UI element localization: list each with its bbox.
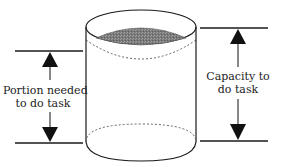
cylinder-bottom-back — [86, 124, 196, 142]
portion-needed-label-line1: Portion needed — [3, 84, 83, 97]
cylinder — [86, 10, 196, 161]
portion-needed-label-line2: to do task — [3, 97, 83, 110]
capacity-label-line2: do task — [200, 83, 276, 96]
arrow-down-icon — [230, 124, 246, 140]
cylinder-bottom-front — [86, 142, 196, 161]
capacity-label-line1: Capacity to — [200, 70, 276, 83]
arrow-down-icon — [42, 127, 58, 142]
liquid-surface — [96, 28, 186, 45]
arrow-up-icon — [230, 29, 246, 44]
capacity-label: Capacity to do task — [200, 70, 276, 96]
arrow-up-icon — [42, 52, 58, 67]
portion-needed-label: Portion needed to do task — [3, 84, 83, 110]
